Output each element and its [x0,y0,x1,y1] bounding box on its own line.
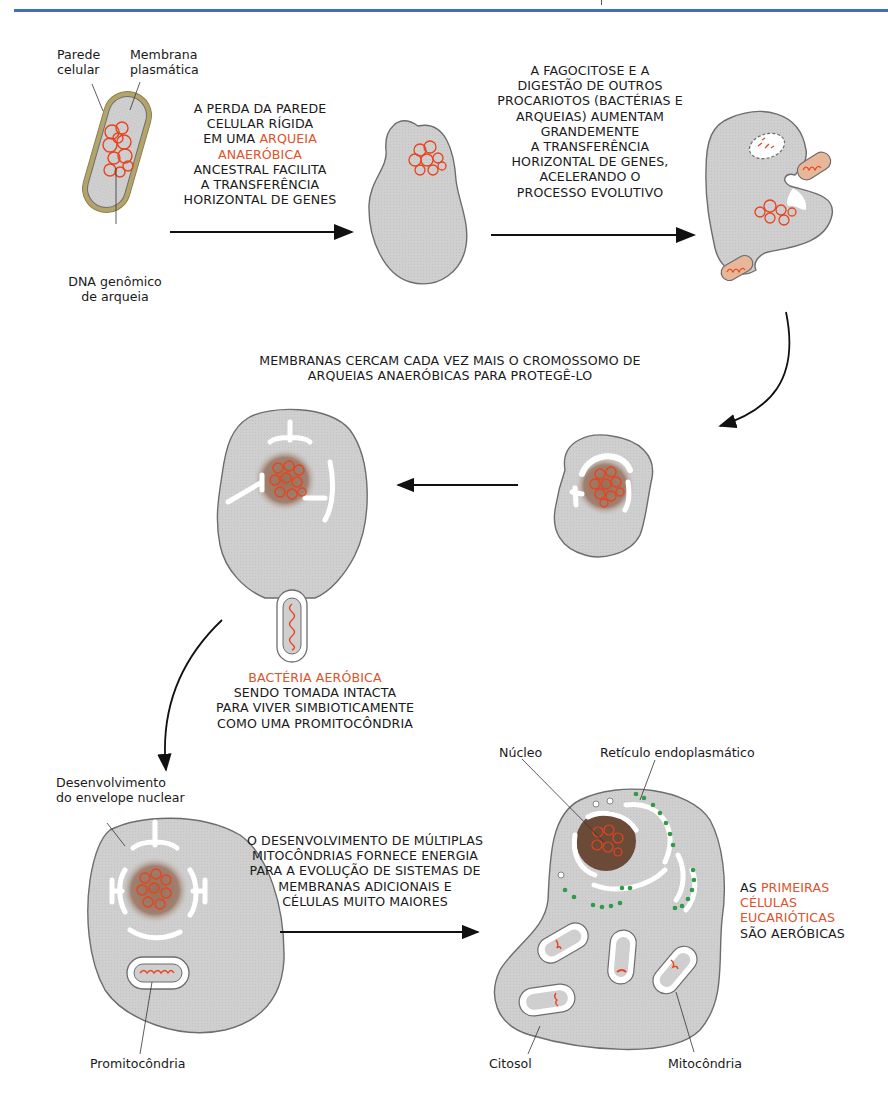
phagocytic-cell [706,112,834,284]
caption-stage6: AS PRIMEIRAS CÉLULAS EUCARIÓTICAS SÃO AE… [740,880,850,941]
caption-line: SÃO AERÓBICAS [740,926,850,941]
caption-line: ARQUEIAS) AUMENTAM [480,109,700,124]
label-nuclear-envelope: Desenvolvimento do envelope nuclear [56,775,185,805]
label-mitochondrion: Mitocôndria [668,1056,742,1071]
caption-highlight: EUCARIÓTICAS [740,910,850,925]
caption-stage3: MEMBRANAS CERCAM CADA VEZ MAIS O CROMOSS… [200,353,700,383]
label-endoplasmic-reticulum: Retículo endoplasmático [600,745,755,760]
caption-highlight: ANAERÓBICA [165,147,355,162]
label-cell-wall: Parede celular [57,47,100,77]
wall-less-cell [369,121,467,284]
label-genomic-dna: DNA genômico de arqueia [60,274,170,304]
caption-stage4: BACTÉRIA AERÓBICA SENDO TOMADA INTACTA P… [185,670,445,731]
label-line: DNA genômico [60,274,170,289]
caption-line: MEMBRANAS ADICIONAIS E [230,879,500,894]
caption-line: ARQUEIAS ANAERÓBICAS PARA PROTEGÊ-LO [200,368,700,383]
caption-line: GRANDEMENTE [480,124,700,139]
caption-line: HORIZONTAL DE GENES, [480,154,700,169]
eukaryotic-cell [495,759,725,1054]
label-line: do envelope nuclear [56,790,185,805]
caption-line: A TRANSFERÊNCIA [480,139,700,154]
label-line: de arqueia [60,289,170,304]
caption-line: A PERDA DA PAREDE [165,101,355,116]
label-cytosol: Citosol [489,1056,532,1071]
label-promitochondrion: Promitocôndria [90,1056,185,1071]
caption-line: COMO UMA PROMITOCÔNDRIA [185,716,445,731]
caption-highlight: ARQUEIA [259,131,316,146]
caption-line: HORIZONTAL DE GENES [165,192,355,207]
caption-highlight: BACTÉRIA AERÓBICA [185,670,445,685]
caption-line: DIGESTÃO DE OUTROS [480,78,700,93]
caption-line: PROCESSO EVOLUTIVO [480,185,700,200]
caption-line: A TRANSFERÊNCIA [165,177,355,192]
caption-line: AS PRIMEIRAS [740,880,850,895]
label-line: Membrana [130,47,199,62]
caption-line: PARA A EVOLUÇÃO DE SISTEMAS DE [230,863,500,878]
caption-line: CÉLULAS MUITO MAIORES [230,894,500,909]
caption-stage1: A PERDA DA PAREDE CELULAR RÍGIDA EM UMA … [165,101,355,207]
label-nucleus: Núcleo [499,745,542,760]
arrow-3 [720,312,789,426]
caption-line: ACELERANDO O [480,169,700,184]
caption-line: MITOCÔNDRIAS FORNECE ENERGIA [230,848,500,863]
label-plasma-membrane: Membrana plasmática [130,47,199,77]
label-line: celular [57,62,100,77]
caption-line: PARA VIVER SIMBIOTICAMENTE [185,700,445,715]
caption-line: EM UMA ARQUEIA [165,131,355,146]
caption-text: AS [740,880,761,895]
caption-line: A FAGOCITOSE E A [480,63,700,78]
caption-line: CELULAR RÍGIDA [165,116,355,131]
caption-line: O DESENVOLVIMENTO DE MÚLTIPLAS [230,833,500,848]
caption-stage2: A FAGOCITOSE E A DIGESTÃO DE OUTROS PROC… [480,63,700,200]
caption-highlight: PRIMEIRAS [761,880,829,895]
caption-line: ANCESTRAL FACILITA [165,162,355,177]
caption-highlight: CÉLULAS [740,895,850,910]
caption-stage5: O DESENVOLVIMENTO DE MÚLTIPLAS MITOCÔNDR… [230,833,500,909]
membrane-enclosing-cell [554,435,652,557]
archaeon-cell [77,82,157,224]
caption-line: PROCARIOTOS (BACTÉRIAS E [480,93,700,108]
label-line: Desenvolvimento [56,775,185,790]
proto-eukaryote-cell [217,409,367,662]
caption-line: MEMBRANAS CERCAM CADA VEZ MAIS O CROMOSS… [200,353,700,368]
caption-line: SENDO TOMADA INTACTA [185,685,445,700]
caption-text: EM UMA [203,131,259,146]
label-line: plasmática [130,62,199,77]
label-line: Parede [57,47,100,62]
